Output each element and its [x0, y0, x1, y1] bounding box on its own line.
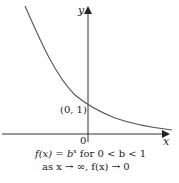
caption-func: f(x) = b [34, 148, 73, 159]
exponential-decay-diagram: y x 0 (0, 1) f(x) = bx for 0 < b < 1 as … [0, 0, 179, 183]
x-axis-label: x [163, 135, 170, 148]
caption-condition: for 0 < b < 1 [77, 148, 146, 159]
origin-label: 0 [80, 135, 86, 146]
point-label-0-1: (0, 1) [60, 104, 87, 115]
caption-line-2: as x → ∞, f(x) → 0 [42, 161, 130, 172]
y-axis-label: y [77, 4, 85, 17]
caption-line-1: f(x) = bx for 0 < b < 1 [34, 147, 146, 159]
exponential-curve [25, 6, 172, 130]
